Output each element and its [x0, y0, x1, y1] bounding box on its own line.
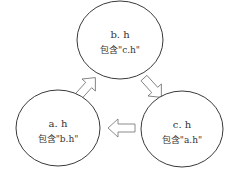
node-b-h: b. h 包含"c.h"	[77, 1, 163, 79]
node-a-title: a. h	[49, 118, 68, 129]
node-a-subtitle: 包含"b.h"	[38, 133, 79, 144]
node-c-subtitle: 包含"a.h"	[162, 134, 202, 145]
node-b-title: b. h	[110, 29, 130, 40]
node-c-title: c. h	[173, 119, 192, 130]
node-c-h: c. h 包含"a.h"	[141, 91, 223, 167]
node-a-h: a. h 包含"b.h"	[16, 90, 100, 166]
arrow-c-to-a	[108, 119, 135, 137]
node-b-subtitle: 包含"c.h"	[100, 44, 140, 55]
circular-include-diagram: b. h 包含"c.h" a. h 包含"b.h" c. h 包含"a.h"	[0, 0, 237, 175]
node-b-ellipse	[77, 1, 163, 79]
